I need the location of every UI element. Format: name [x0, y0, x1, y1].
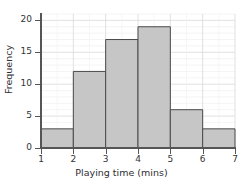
histogram-bar — [138, 27, 170, 148]
x-axis-tick-label: 6 — [195, 155, 211, 164]
y-axis-line — [40, 13, 42, 149]
y-axis-tick — [35, 116, 41, 117]
x-axis-tick-label: 7 — [227, 155, 243, 164]
histogram-bar — [106, 40, 138, 148]
y-axis-tick — [35, 84, 41, 85]
y-axis-tick — [35, 52, 41, 53]
histogram-bar — [170, 110, 202, 148]
x-axis-tick-label: 3 — [98, 155, 114, 164]
y-axis-tick-label: 0 — [6, 143, 32, 152]
y-axis-tick — [35, 20, 41, 21]
plot-area — [41, 14, 235, 148]
y-axis-tick-label: 20 — [6, 15, 32, 24]
histogram-chart: 05101520 1234567 Playing time (mins) Fre… — [0, 0, 243, 181]
x-axis-tick-label: 4 — [130, 155, 146, 164]
x-axis-tick-label: 2 — [65, 155, 81, 164]
x-axis-tick-label: 1 — [33, 155, 49, 164]
histogram-bar — [73, 71, 105, 148]
x-axis-title: Playing time (mins) — [0, 167, 243, 178]
y-axis-title: Frequency — [3, 30, 14, 110]
bars-layer — [41, 14, 235, 148]
histogram-bar — [203, 129, 235, 148]
x-axis-tick-label: 5 — [162, 155, 178, 164]
y-axis-tick-label: 5 — [6, 111, 32, 120]
histogram-bar — [41, 129, 73, 148]
